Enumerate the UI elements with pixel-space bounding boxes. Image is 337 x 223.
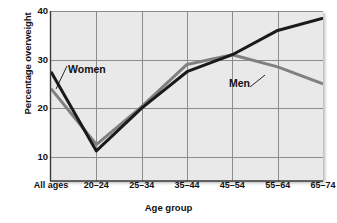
series-label-women: Women (68, 64, 106, 75)
x-tick-label: 65–74 (310, 181, 335, 190)
gridlines (51, 11, 323, 181)
leader-line-women (56, 66, 67, 89)
x-tick-label: All ages (34, 181, 69, 190)
plot-svg (51, 11, 323, 181)
y-tick-label: 40 (26, 6, 48, 16)
plot-area (51, 11, 323, 181)
x-axis-title: Age group (0, 202, 337, 213)
x-tick-label: 35–44 (174, 181, 199, 190)
y-tick-label: 30 (26, 55, 48, 65)
x-axis-tick-labels: All ages20–2425–3435–4445–5455–6465–74 (0, 181, 337, 197)
chart-container: Percentage overweight 40302010 Women Men… (0, 0, 337, 223)
x-tick-label: 45–54 (220, 181, 245, 190)
x-tick-label: 55–64 (265, 181, 290, 190)
y-tick-label: 10 (26, 152, 48, 162)
x-tick-label: 20–24 (84, 181, 109, 190)
leader-line-men (250, 75, 265, 87)
y-tick-label: 20 (26, 103, 48, 113)
x-tick-label: 25–34 (129, 181, 154, 190)
series-label-men: Men (229, 78, 250, 89)
